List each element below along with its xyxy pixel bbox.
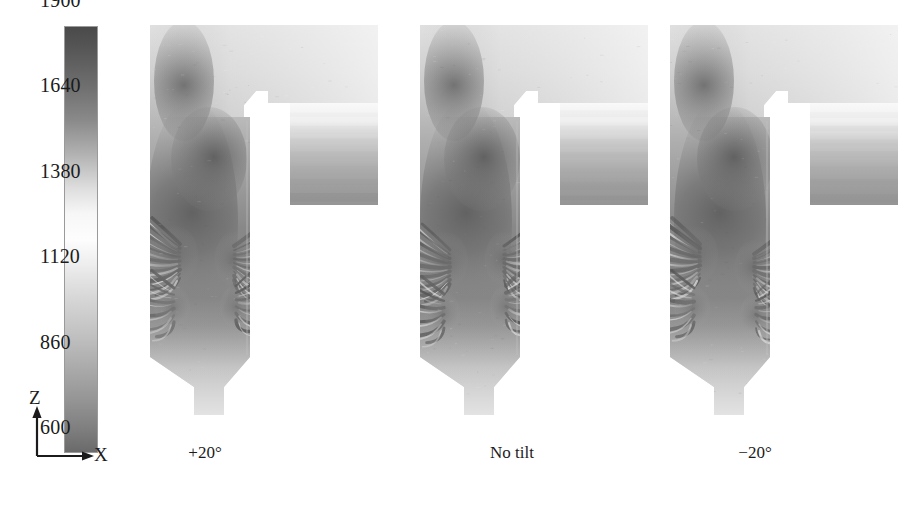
furnace-body-field [150, 25, 378, 415]
axis-label-z: Z [29, 388, 41, 407]
colorbar-tick-860: 860 [40, 332, 71, 352]
panel-caption-minus20: −20° [700, 444, 810, 461]
colorbar-tick-1120: 1120 [40, 246, 80, 266]
colorbar-tick-1900: 1900 [40, 0, 81, 10]
orientation-axes: Z X [28, 388, 112, 470]
figure-canvas: 1900164013801120860600 Z X +20° No tilt … [0, 0, 913, 506]
panel-caption-no-tilt: No tilt [448, 444, 576, 461]
axis-label-x: X [94, 445, 108, 464]
contour-panel-plus20 [150, 25, 378, 415]
temperature-field [670, 25, 898, 415]
colorbar-tick-1640: 1640 [40, 75, 81, 95]
temperature-field [420, 25, 648, 415]
colorbar-tick-1380: 1380 [40, 161, 81, 181]
temperature-field [150, 25, 378, 415]
outlet-pass-field [288, 101, 378, 207]
furnace-body-field [670, 25, 898, 415]
contour-panel-minus20 [670, 25, 898, 415]
furnace-body-field [420, 25, 648, 415]
contour-panel-no-tilt [420, 25, 648, 415]
panel-caption-plus20: +20° [150, 444, 260, 461]
colorbar-tick-labels: 1900164013801120860600 [40, 0, 120, 441]
outlet-pass-field [808, 101, 898, 207]
outlet-pass-field [558, 101, 648, 207]
